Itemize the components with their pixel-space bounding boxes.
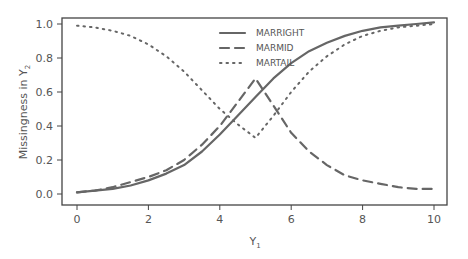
x-tick-label: 2 bbox=[145, 213, 152, 226]
x-tick-label: 10 bbox=[427, 213, 441, 226]
legend-label: MARTAIL bbox=[256, 58, 294, 68]
x-tick-label: 8 bbox=[359, 213, 366, 226]
series-martail bbox=[77, 24, 434, 138]
series-marmid bbox=[77, 78, 434, 192]
x-tick-label: 6 bbox=[288, 213, 295, 226]
y-tick-label: 0.4 bbox=[36, 120, 54, 133]
y-tick-label: 0.0 bbox=[36, 188, 54, 201]
x-axis: 0246810 bbox=[74, 205, 442, 226]
legend: MARRIGHTMARMIDMARTAIL bbox=[220, 28, 305, 68]
y-tick-label: 1.0 bbox=[36, 18, 54, 31]
y-tick-label: 0.6 bbox=[36, 86, 54, 99]
y-axis-label: Missingness in Y2 bbox=[17, 65, 32, 159]
legend-label: MARMID bbox=[256, 43, 294, 53]
line-chart: 0.00.20.40.60.81.0 0246810 MARRIGHTMARMI… bbox=[0, 0, 468, 259]
legend-label: MARRIGHT bbox=[256, 28, 305, 38]
x-tick-label: 4 bbox=[216, 213, 223, 226]
x-tick-label: 0 bbox=[74, 213, 81, 226]
plot-frame bbox=[62, 18, 447, 205]
y-tick-label: 0.2 bbox=[36, 154, 54, 167]
y-tick-label: 0.8 bbox=[36, 52, 54, 65]
x-axis-label: Y1 bbox=[248, 235, 260, 250]
y-axis: 0.00.20.40.60.81.0 bbox=[36, 18, 63, 201]
